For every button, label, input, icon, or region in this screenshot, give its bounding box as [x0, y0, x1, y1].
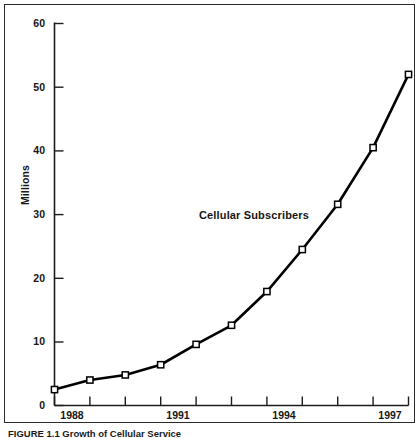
- y-tick-label-0: 0: [21, 400, 45, 411]
- y-tick-label-40: 40: [21, 145, 45, 156]
- data-point-marker: [335, 201, 341, 207]
- y-axis-ticks: [55, 24, 64, 406]
- data-point-marker: [405, 71, 411, 77]
- data-point-marker: [299, 246, 305, 252]
- x-tick-label-1991: 1991: [155, 409, 201, 421]
- data-point-marker: [228, 322, 234, 328]
- data-point-marker: [158, 362, 164, 368]
- data-point-marker: [122, 372, 128, 378]
- data-point-marker: [193, 341, 199, 347]
- y-tick-label-50: 50: [21, 82, 45, 93]
- data-point-marker: [370, 145, 376, 151]
- y-tick-label-20: 20: [21, 273, 45, 284]
- figure-caption: FIGURE 1.1 Growth of Cellular Service: [8, 428, 413, 438]
- series-markers: [51, 71, 411, 392]
- data-point-marker: [264, 288, 270, 294]
- figure-root: Millions 60 50 40 30 20 10 0 1988 1991 1…: [0, 0, 419, 438]
- x-tick-label-1997: 1997: [367, 409, 413, 421]
- series-annotation-label: Cellular Subscribers: [199, 209, 309, 221]
- data-point-marker: [51, 386, 57, 392]
- x-tick-label-1994: 1994: [261, 409, 307, 421]
- y-tick-label-10: 10: [21, 336, 45, 347]
- data-series-cellular-subscribers: [51, 71, 411, 392]
- data-point-marker: [87, 377, 93, 383]
- chart-frame: Millions 60 50 40 30 20 10 0 1988 1991 1…: [4, 4, 415, 423]
- x-axis-ticks: [55, 397, 409, 406]
- series-line: [55, 74, 409, 389]
- y-tick-label-60: 60: [21, 18, 45, 29]
- x-tick-label-1988: 1988: [49, 409, 95, 421]
- y-tick-label-30: 30: [21, 209, 45, 220]
